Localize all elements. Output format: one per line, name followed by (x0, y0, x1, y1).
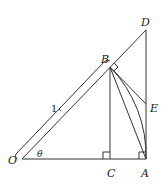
geometry-diagram: O C A B D E θ 1 (0, 0, 162, 184)
label-E: E (149, 102, 158, 115)
label-A: A (140, 167, 149, 180)
brace-tick (59, 109, 61, 111)
segment-OD (22, 30, 146, 159)
angle-theta: θ (37, 149, 43, 159)
length-label: 1 (51, 103, 57, 114)
segment-BA (110, 67, 146, 159)
label-C: C (107, 167, 116, 180)
label-D: D (140, 16, 150, 29)
length-brace (16, 62, 104, 154)
right-angle-B (114, 63, 118, 71)
right-angle-C (103, 152, 110, 159)
label-O: O (8, 154, 17, 167)
label-B: B (100, 53, 109, 66)
